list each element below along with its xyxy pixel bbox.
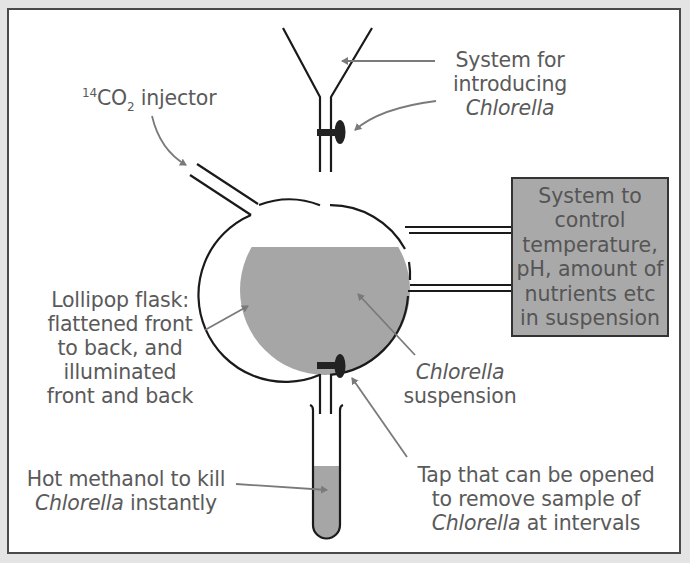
label-line: Hot methanol to kill [16,467,236,491]
label-line: Lollipop flask: [30,288,210,312]
injector-text: injector [134,86,216,110]
diagram-canvas: 14CO2 injector System for introducing Ch… [0,0,690,563]
label-line-italic: Chlorella [432,511,521,535]
box-line: control [554,208,625,233]
bottom-neck [320,374,331,414]
arrow-introducing-tap [355,101,436,130]
label-line: Tap that can be opened [406,463,666,487]
label-line: introducing [440,72,580,96]
subscript-2: 2 [127,100,134,114]
label-line: flattened front [30,312,210,336]
test-tube [310,405,343,539]
superscript-14: 14 [82,86,97,100]
box-line: System to [538,184,642,209]
label-line: suspension [400,384,520,408]
hot-methanol [313,466,340,539]
label-line-italic: Chlorella [416,360,505,384]
label-line-rest: instantly [124,491,217,515]
label-line: to back, and [30,336,210,360]
label-hot-methanol: Hot methanol to kill Chlorella instantly [16,467,236,515]
label-line: front and back [30,384,210,408]
arrow-tap [352,378,407,457]
box-line: in suspension [520,306,660,331]
box-line: temperature, [522,233,657,258]
funnel [283,28,372,172]
label-lollipop-flask: Lollipop flask: flattened front to back,… [30,288,210,408]
label-sample-tap: Tap that can be opened to remove sample … [406,463,666,535]
label-line: illuminated [30,360,210,384]
label-line-rest: at intervals [520,511,640,535]
arrow-flask [205,306,248,330]
label-line-italic: Chlorella [466,96,555,120]
co-text: CO [97,86,127,110]
arrow-injector [152,116,186,165]
label-line: System for [440,48,580,72]
label-introducing-chlorella: System for introducing Chlorella [440,48,580,120]
control-pipes [405,227,512,291]
co2-injector-tube [190,164,258,215]
label-chlorella-suspension: Chlorella suspension [400,360,520,408]
control-system-box: System to control temperature, pH, amoun… [511,177,669,337]
box-line: pH, amount of [517,257,664,282]
chlorella-suspension [238,247,414,379]
box-line: nutrients etc [525,282,656,307]
label-line-italic: Chlorella [35,491,124,515]
label-line: to remove sample of [406,487,666,511]
label-co2-injector: 14CO2 injector [82,86,216,113]
